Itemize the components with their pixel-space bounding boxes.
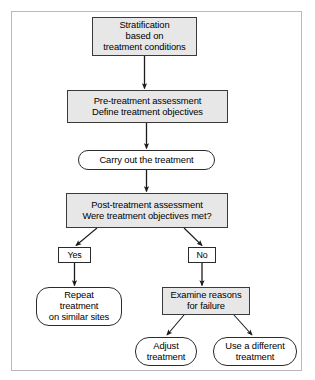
node-yes-label: Yes — [67, 250, 81, 260]
node-stratification[interactable]: Stratification based on treatment condit… — [92, 17, 197, 56]
node-examine-reasons[interactable]: Examine reasons for failure — [162, 287, 250, 315]
node-adjust-treatment[interactable]: Adjust treatment — [135, 337, 197, 366]
node-carryout-line-1: Carry out the treatment — [99, 155, 193, 166]
node-repeat-treatment[interactable]: Repeat treatment on similar sites — [36, 287, 122, 326]
flowchart-page: Stratification based on treatment condit… — [0, 0, 315, 380]
node-pretreatment-line-1: Pre-treatment assessment — [92, 96, 203, 107]
node-usedifferent-line-1: Use a different — [225, 341, 284, 352]
node-no-label: No — [196, 250, 207, 260]
node-examine-line-2: for failure — [171, 301, 242, 312]
node-branch-no[interactable]: No — [188, 247, 216, 263]
node-pretreatment-line-2: Define treatment objectives — [92, 107, 203, 118]
node-carry-out-treatment[interactable]: Carry out the treatment — [78, 150, 215, 170]
node-adjust-line-1: Adjust — [147, 341, 186, 352]
node-stratification-line-3: treatment conditions — [103, 42, 185, 53]
node-branch-yes[interactable]: Yes — [58, 247, 91, 263]
node-use-different-treatment[interactable]: Use a different treatment — [213, 337, 297, 366]
node-usedifferent-line-2: treatment — [225, 352, 284, 363]
node-posttreatment-assessment[interactable]: Post-treatment assessment Were treatment… — [66, 193, 228, 228]
node-posttreatment-line-1: Post-treatment assessment — [82, 200, 211, 211]
node-repeat-line-3: on similar sites — [49, 312, 109, 323]
node-pretreatment-assessment[interactable]: Pre-treatment assessment Define treatmen… — [67, 90, 228, 123]
node-posttreatment-line-2: Were treatment objectives met? — [82, 211, 211, 222]
node-adjust-line-2: treatment — [147, 352, 186, 363]
